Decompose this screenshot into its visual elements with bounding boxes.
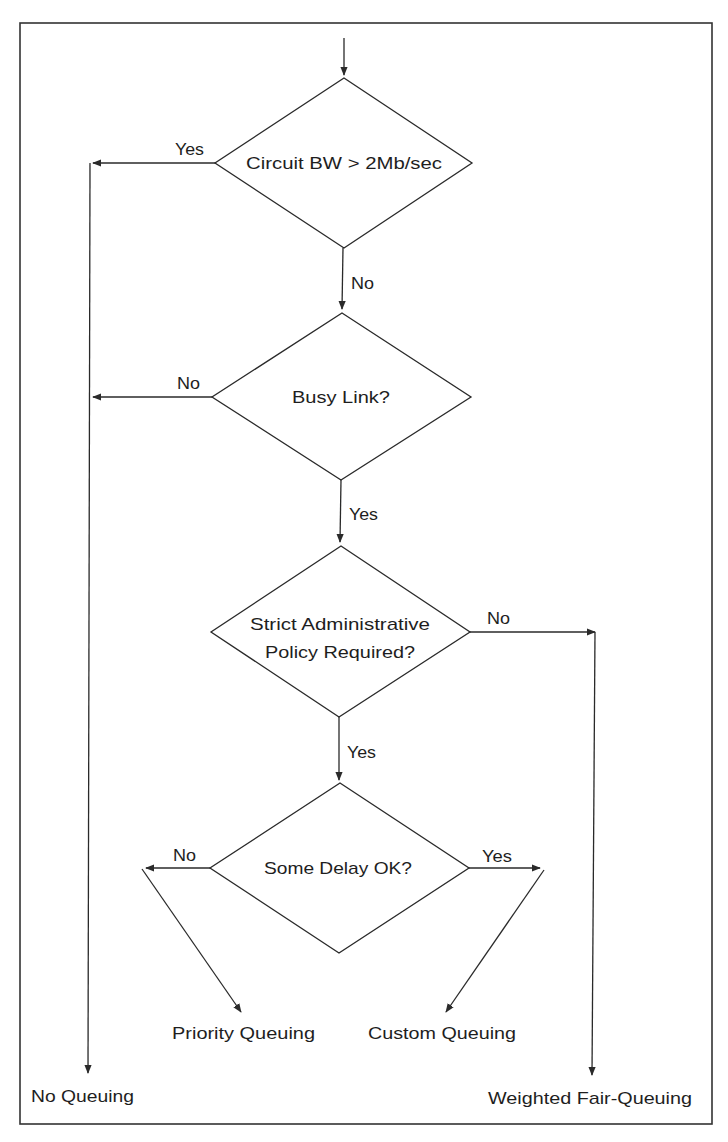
decision-busy-link-label: Busy Link?	[292, 388, 390, 407]
edge-label-some-delay-no: No	[173, 846, 196, 865]
decision-strict-policy-label-line2: Policy Required?	[265, 643, 415, 662]
edge-circuit-bw-no	[342, 248, 343, 309]
edge-label-strict-policy-no: No	[487, 609, 510, 628]
edge-label-strict-policy-yes: Yes	[347, 743, 376, 762]
outcome-custom-queuing: Custom Queuing	[368, 1024, 516, 1043]
decision-circuit-bw-label: Circuit BW > 2Mb/sec	[246, 154, 443, 173]
edge-to-weighted-fair-queuing	[592, 632, 595, 1075]
queuing-decision-flowchart: Circuit BW > 2Mb/sec Yes No Busy Link? N…	[0, 0, 728, 1142]
edge-to-priority-queuing	[142, 869, 241, 1012]
decision-some-delay-label: Some Delay OK?	[264, 859, 412, 878]
edge-to-custom-queuing	[446, 870, 544, 1012]
edge-to-no-queuing	[88, 163, 90, 1073]
outcome-priority-queuing: Priority Queuing	[172, 1024, 315, 1043]
edge-label-some-delay-yes: Yes	[482, 847, 512, 866]
decision-strict-policy-label-line1: Strict Administrative	[250, 615, 430, 634]
edge-busy-link-yes	[340, 480, 341, 542]
edge-label-busy-link-no: No	[177, 374, 200, 393]
edge-label-circuit-bw-yes: Yes	[175, 140, 204, 159]
edge-label-circuit-bw-no: No	[351, 274, 374, 293]
outcome-no-queuing: No Queuing	[31, 1087, 134, 1106]
edge-label-busy-link-yes: Yes	[349, 505, 378, 524]
outcome-weighted-fair-queuing: Weighted Fair-Queuing	[488, 1089, 692, 1108]
